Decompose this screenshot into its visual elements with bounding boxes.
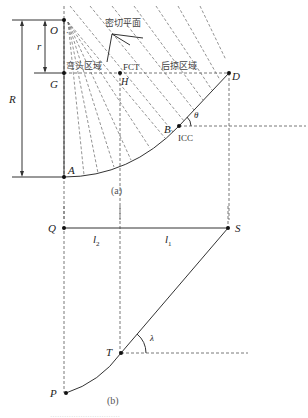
arrow-R-top	[20, 20, 24, 26]
figure-a: R r θ O G H D B A 密切平面	[8, 6, 306, 220]
label-lambda: λ	[149, 333, 154, 343]
label-T: T	[106, 346, 113, 358]
arrow-r-bottom	[43, 67, 47, 73]
point-S	[226, 226, 230, 230]
caption-a: (a)	[111, 185, 122, 197]
label-l1: l1	[165, 233, 172, 248]
arrow-r-top	[43, 20, 47, 26]
point-Q	[62, 226, 66, 230]
curve-TP	[66, 353, 121, 393]
angle-theta-arc	[187, 117, 191, 126]
label-r: r	[37, 40, 42, 52]
fan-origin-marker: ·	[66, 29, 69, 38]
label-R: R	[8, 93, 16, 105]
point-A	[62, 175, 66, 179]
point-B	[177, 124, 181, 128]
label-Q: Q	[48, 222, 56, 234]
label-P: P	[49, 387, 57, 399]
label-l2: l2	[93, 233, 100, 248]
label-icc: ICC	[178, 133, 193, 143]
label-A: A	[67, 164, 75, 176]
point-H	[118, 71, 122, 75]
hatch-lines	[68, 6, 226, 175]
point-T	[119, 351, 123, 355]
label-G: G	[50, 78, 58, 90]
caption-b: (b)	[107, 395, 119, 407]
angle-lambda-arc	[137, 334, 146, 353]
label-tail-region: 后掠区域	[161, 60, 197, 71]
line-BD	[179, 73, 229, 126]
point-D	[227, 71, 231, 75]
label-B: B	[164, 123, 171, 135]
arrow-R-bottom	[20, 171, 24, 177]
label-S: S	[235, 222, 241, 234]
label-O: O	[50, 24, 58, 36]
label-theta: θ	[194, 110, 199, 120]
label-D: D	[231, 70, 240, 82]
label-head-region: 弯头区域	[66, 60, 102, 71]
swept-blade-geometry-diagram: R r θ O G H D B A 密切平面	[0, 0, 308, 418]
figure-b: λ Q S T P l2 l1 (b)	[48, 206, 248, 407]
label-tangent-plane: 密切平面	[105, 17, 141, 28]
point-G	[62, 71, 66, 75]
point-P	[64, 391, 68, 395]
label-fct: FCT	[123, 62, 140, 72]
label-H: H	[120, 76, 129, 87]
figure-caption-faint: …………………………	[50, 411, 120, 418]
point-O	[62, 18, 66, 22]
